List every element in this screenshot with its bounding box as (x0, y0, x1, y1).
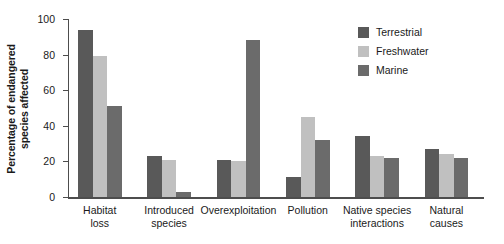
y-axis-tick-label: 100 (37, 13, 55, 25)
y-axis-tick-label: 20 (43, 155, 55, 167)
chart-legend: TerrestrialFreshwaterMarine (358, 24, 429, 81)
bar (217, 160, 232, 197)
bar (93, 56, 108, 197)
bar (439, 154, 454, 197)
legend-swatch-icon (358, 46, 369, 57)
legend-swatch-icon (358, 27, 369, 38)
y-axis-tick-label: 60 (43, 84, 55, 96)
bar (370, 156, 385, 197)
legend-label: Marine (376, 64, 408, 76)
legend-item: Marine (358, 62, 429, 78)
legend-item: Terrestrial (358, 24, 429, 40)
bar (162, 160, 177, 197)
y-axis-tick: 80 (63, 55, 68, 56)
legend-item: Freshwater (358, 43, 429, 59)
bar (246, 40, 261, 197)
bar-group (286, 19, 330, 197)
y-axis-tick: 100 (63, 19, 68, 20)
y-axis-tick-label: 80 (43, 49, 55, 61)
y-axis-tick: 60 (63, 90, 68, 91)
x-axis-line (68, 197, 484, 199)
x-axis-category-label: Naturalcauses (386, 204, 504, 230)
bar (231, 161, 246, 197)
bar (315, 140, 330, 197)
legend-label: Freshwater (376, 45, 429, 57)
bar (454, 158, 469, 197)
bar (384, 158, 399, 197)
legend-swatch-icon (358, 65, 369, 76)
legend-label: Terrestrial (376, 26, 422, 38)
y-axis-tick-label: 40 (43, 120, 55, 132)
y-axis-tick: 0 (63, 197, 68, 198)
bar-group (425, 19, 469, 197)
bar-group (147, 19, 191, 197)
bar (425, 149, 440, 197)
bar-chart-figure: Percentage of endangeredspecies affected… (0, 0, 504, 244)
bar (355, 136, 370, 197)
bar (147, 156, 162, 197)
bar-group (217, 19, 261, 197)
y-axis-title-text: Percentage of endangeredspecies affected (5, 44, 30, 173)
bar-group (78, 19, 122, 197)
bar (107, 106, 122, 197)
y-axis-tick-label: 0 (49, 191, 55, 203)
bar (286, 177, 301, 197)
bar (176, 192, 191, 197)
bar (301, 117, 316, 197)
bar (78, 30, 93, 197)
y-axis-title: Percentage of endangeredspecies affected (2, 18, 32, 200)
y-axis-tick: 40 (63, 126, 68, 127)
y-axis-tick: 20 (63, 161, 68, 162)
